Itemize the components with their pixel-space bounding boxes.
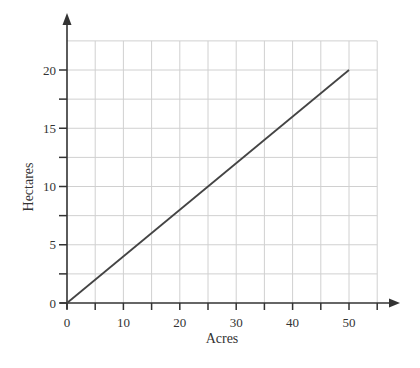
y-axis-arrow-icon [63,13,72,25]
x-tick-label: 0 [64,315,71,330]
x-axis-arrow-icon [389,299,400,308]
x-tick-label: 50 [343,315,356,330]
x-axis-title: Acres [206,331,239,346]
x-tick-label: 40 [286,315,299,330]
acres-hectares-chart: 0102030405005101520 Acres Hectares [0,0,420,368]
y-tick-label: 20 [43,63,56,78]
y-tick-label: 5 [50,237,57,252]
axis-ticks: 0102030405005101520 [43,63,377,331]
y-tick-label: 10 [43,179,56,194]
x-tick-label: 30 [230,315,243,330]
x-tick-label: 10 [117,315,130,330]
y-axis-title: Hectares [21,163,36,212]
x-tick-label: 20 [173,315,186,330]
y-tick-label: 15 [43,121,56,136]
y-tick-label: 0 [50,296,57,311]
